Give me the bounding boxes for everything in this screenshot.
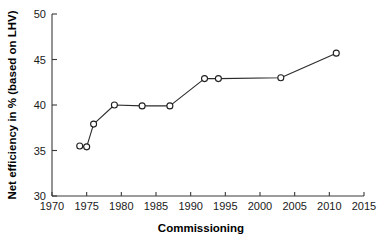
- data-point-marker: [84, 144, 90, 150]
- y-axis-tick-labels: 3035404550: [34, 8, 46, 202]
- line-chart: 1970197519801985199019952000200520102015…: [0, 0, 387, 240]
- x-tick-label: 2010: [317, 200, 341, 212]
- chart-figure: 1970197519801985199019952000200520102015…: [0, 0, 387, 240]
- data-point-marker: [202, 76, 208, 82]
- x-tick-label: 1990: [178, 200, 202, 212]
- data-point-marker: [333, 50, 339, 56]
- x-tick-label: 2000: [248, 200, 272, 212]
- chart-tick-marks: [52, 14, 364, 196]
- y-tick-label: 40: [34, 99, 46, 111]
- chart-axes: [52, 14, 364, 196]
- y-tick-label: 50: [34, 8, 46, 20]
- x-tick-label: 1985: [144, 200, 168, 212]
- x-tick-label: 1995: [213, 200, 237, 212]
- x-tick-label: 2015: [352, 200, 376, 212]
- x-axis-title: Commissioning: [158, 222, 244, 234]
- x-axis-tick-labels: 1970197519801985199019952000200520102015: [40, 200, 376, 212]
- y-tick-label: 35: [34, 145, 46, 157]
- data-point-marker: [167, 103, 173, 109]
- data-point-marker: [278, 75, 284, 81]
- data-point-marker: [91, 121, 97, 127]
- data-point-marker: [215, 76, 221, 82]
- data-point-marker: [139, 103, 145, 109]
- x-tick-label: 1980: [109, 200, 133, 212]
- y-tick-label: 45: [34, 54, 46, 66]
- y-axis-title: Net efficiency in % (based on LHV): [6, 10, 18, 199]
- series-polyline: [80, 53, 337, 147]
- x-tick-label: 1975: [74, 200, 98, 212]
- data-series-net-efficiency: [77, 50, 340, 150]
- data-point-marker: [77, 143, 83, 149]
- y-tick-label: 30: [34, 190, 46, 202]
- data-point-marker: [111, 102, 117, 108]
- x-tick-label: 2005: [282, 200, 306, 212]
